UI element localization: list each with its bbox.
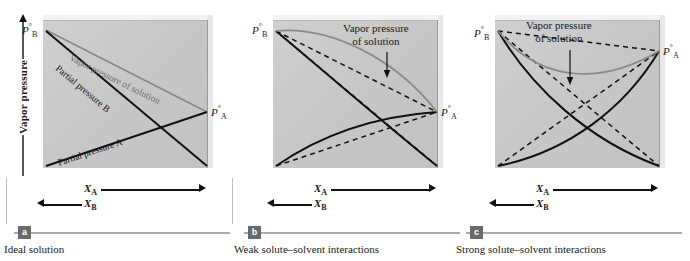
panel-a: Vapor pressure P°B: [0, 0, 230, 261]
callout-line1-c: Vapor pressure: [526, 19, 592, 32]
curve-partial-b-b: [276, 31, 437, 166]
x-label-xb-b: XB: [314, 197, 327, 212]
label-p-a-standard-a: P°A: [211, 104, 227, 121]
vapor-pressure-figure: Vapor pressure P°B: [0, 0, 690, 261]
x-axis-a: XA XB: [0, 182, 230, 224]
panel-divider-0: [6, 178, 7, 224]
x-label-xa-a: XA: [84, 182, 97, 197]
x-label-xa-c: XA: [536, 182, 549, 197]
x-label-xb-a: XB: [84, 197, 97, 212]
x-arrow-a-head-b: [429, 184, 436, 192]
x-arrow-b-line-c: [496, 204, 534, 206]
curve-ideal-partial-a-c: [498, 51, 659, 166]
caption-rule-a: [14, 232, 230, 234]
label-p-b-standard-c: P°B: [474, 25, 489, 42]
x-axis-b: XA XB: [230, 182, 460, 224]
x-arrow-b-line-b: [274, 204, 312, 206]
panel-caption-c: Strong solute–solvent interactions: [456, 243, 606, 255]
x-label-xa-b: XA: [314, 182, 327, 197]
curve-ideal-partial-a-b: [276, 112, 437, 166]
curve-ideal-partial-b-c: [498, 31, 659, 166]
x-arrow-a-line: [101, 189, 199, 191]
callout-arrow-head-b: [384, 70, 391, 78]
callout-line1-b: Vapor pressure: [343, 22, 409, 35]
curve-partial-b-a: [46, 31, 207, 166]
x-arrow-a-head-c: [651, 184, 658, 192]
label-p-a-standard-c: P°A: [663, 43, 679, 60]
panel-caption-b: Weak solute–solvent interactions: [234, 243, 379, 255]
x-label-xb-c: XB: [536, 197, 549, 212]
x-arrow-b-line: [44, 204, 82, 206]
callout-line2-c: of solution: [526, 32, 592, 45]
x-arrow-a-line-c: [553, 189, 651, 191]
callout-c: Vapor pressure of solution: [526, 19, 592, 45]
panel-badge-b: b: [248, 226, 261, 239]
x-arrow-a-head: [199, 184, 206, 192]
caption-rule-b: [244, 232, 460, 234]
label-p-b-standard-b: P°B: [252, 22, 267, 39]
x-axis-c: XA XB: [460, 182, 690, 224]
x-arrow-a-line-b: [331, 189, 429, 191]
plot-area-a: P°B P°A Vapor pressure of solution Parti…: [0, 0, 230, 180]
label-p-a-standard-b: P°A: [441, 104, 457, 121]
panel-b: P°B P°A Vapor pressure of solution XA XB: [230, 0, 460, 261]
plot-area-b: P°B P°A Vapor pressure of solution: [230, 0, 460, 180]
panel-badge-c: c: [470, 226, 483, 239]
callout-b: Vapor pressure of solution: [343, 22, 409, 48]
x-arrow-b-head: [37, 199, 44, 207]
callout-line2-b: of solution: [343, 35, 409, 48]
plot-area-c: P°B P°A Vapor pressure of solution: [460, 0, 690, 180]
callout-arrow-head-c: [567, 77, 574, 85]
x-arrow-b-head-b: [267, 199, 274, 207]
label-p-b-standard-a: P°B: [22, 22, 37, 39]
x-arrow-b-head-c: [489, 199, 496, 207]
panel-caption-a: Ideal solution: [4, 243, 64, 255]
caption-rule-c: [466, 232, 682, 234]
panel-divider-1: [232, 178, 233, 224]
panel-c: P°B P°A Vapor pressure of solution XA XB: [460, 0, 690, 261]
panel-badge-a: a: [18, 226, 31, 239]
